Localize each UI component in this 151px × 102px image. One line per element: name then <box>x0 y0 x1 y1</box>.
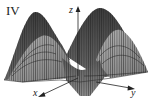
z-axis-arrow-icon <box>76 6 81 12</box>
x-axis-arrow-icon <box>38 92 46 97</box>
y-axis <box>96 82 135 91</box>
surface-plot <box>0 0 151 102</box>
z-axis-label: z <box>69 5 73 15</box>
x-axis-label: x <box>33 88 37 98</box>
surface-figure: IV z x y <box>0 0 151 102</box>
panel-label: IV <box>6 4 20 17</box>
y-axis-label: y <box>131 88 135 98</box>
